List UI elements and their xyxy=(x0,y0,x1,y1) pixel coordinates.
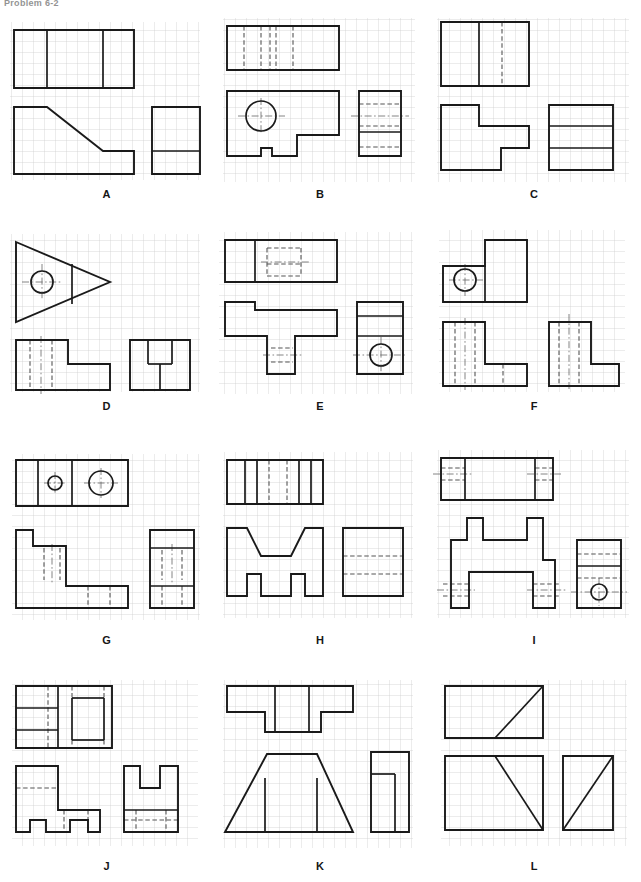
problem-panel-b: B xyxy=(213,8,427,204)
graph-paper-grid xyxy=(441,680,627,846)
graph-paper-grid xyxy=(219,232,413,394)
graph-paper-grid xyxy=(12,680,198,846)
panel-label-g: G xyxy=(0,634,213,646)
problem-panel-e: E xyxy=(213,218,427,416)
problem-panel-a: A xyxy=(0,8,213,204)
panel-label-a: A xyxy=(0,188,213,200)
graph-paper-grid xyxy=(223,18,415,182)
panel-label-l: L xyxy=(427,860,641,872)
panel-label-e: E xyxy=(213,400,427,412)
panel-label-b: B xyxy=(213,188,427,200)
panel-label-j: J xyxy=(0,860,213,872)
problem-panel-d: D xyxy=(0,218,213,416)
problem-panel-h: H xyxy=(213,438,427,650)
graph-paper-grid xyxy=(223,680,413,848)
problem-panel-i: I xyxy=(427,438,641,650)
problem-panel-f: F xyxy=(427,218,641,416)
problem-panel-g: G xyxy=(0,438,213,650)
problem-panel-c: C xyxy=(427,8,641,204)
problem-panel-l: L xyxy=(427,662,641,876)
panel-label-k: K xyxy=(213,860,427,872)
panel-label-i: I xyxy=(427,634,641,646)
graph-paper-grid xyxy=(439,230,625,392)
drawing-sheet: Problem 6-2 ABCDEFGHIJKL xyxy=(0,0,641,882)
panel-label-d: D xyxy=(0,400,213,412)
problem-panel-k: K xyxy=(213,662,427,876)
graph-paper-grid xyxy=(10,22,200,180)
graph-paper-grid xyxy=(12,454,200,620)
panel-label-h: H xyxy=(213,634,427,646)
sheet-header: Problem 6-2 xyxy=(4,0,59,8)
graph-paper-grid xyxy=(437,18,629,182)
problem-panel-j: J xyxy=(0,662,213,876)
panel-label-f: F xyxy=(427,400,641,412)
panel-label-c: C xyxy=(427,188,641,200)
